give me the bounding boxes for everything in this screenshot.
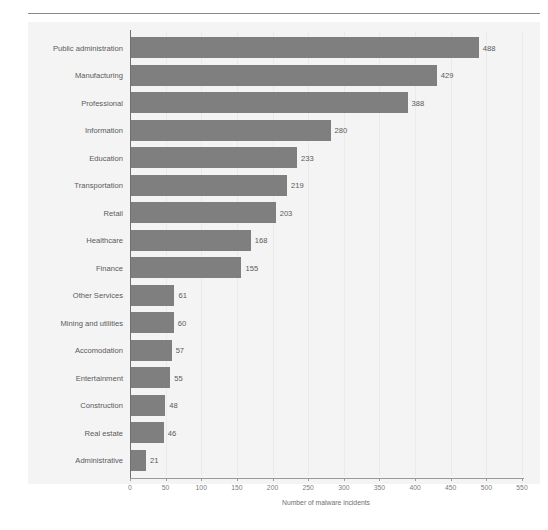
x-axis-tick <box>344 478 345 481</box>
bar-row: Entertainment55 <box>130 364 522 392</box>
x-axis-tick-label: 200 <box>267 484 278 491</box>
x-axis-tick-label: 150 <box>231 484 242 491</box>
x-axis-tick <box>308 478 309 481</box>
x-axis-tick <box>237 478 238 481</box>
x-axis-tick <box>415 478 416 481</box>
category-label: Other Services <box>73 291 123 300</box>
category-label: Healthcare <box>86 236 123 245</box>
bar-row: Professional388 <box>130 89 522 117</box>
bar-value-label: 168 <box>255 236 268 245</box>
bar-value-label: 46 <box>168 428 176 437</box>
x-axis-tick-label: 100 <box>196 484 207 491</box>
category-label: Real estate <box>85 428 123 437</box>
plot-area: Public administration488Manufacturing429… <box>130 34 522 474</box>
category-label: Finance <box>96 263 123 272</box>
bar-row: Accomodation57 <box>130 337 522 365</box>
bar-value-label: 55 <box>174 373 182 382</box>
x-axis-tick-label: 300 <box>338 484 349 491</box>
bar-value-label: 429 <box>441 71 454 80</box>
bar <box>131 230 251 251</box>
x-axis-tick <box>379 478 380 481</box>
bar-row: Public administration488 <box>130 34 522 62</box>
header-divider-rule <box>28 13 540 14</box>
bar <box>131 422 164 443</box>
bar <box>131 37 479 58</box>
x-axis-tick-label: 50 <box>162 484 170 491</box>
x-axis-tick <box>451 478 452 481</box>
x-axis-tick-label: 0 <box>128 484 132 491</box>
x-axis-line <box>130 478 524 479</box>
category-label: Construction <box>80 401 123 410</box>
x-axis-tick <box>201 478 202 481</box>
bar-row: Real estate46 <box>130 419 522 447</box>
x-axis-tick-label: 500 <box>481 484 492 491</box>
bar <box>131 312 174 333</box>
bar-value-label: 203 <box>280 208 293 217</box>
bar-value-label: 280 <box>335 126 348 135</box>
category-label: Retail <box>104 208 123 217</box>
bar-value-label: 155 <box>245 263 258 272</box>
gridline <box>522 32 523 476</box>
bar-row: Construction48 <box>130 392 522 420</box>
bar <box>131 202 276 223</box>
bar <box>131 175 287 196</box>
x-axis-tick <box>166 478 167 481</box>
bar <box>131 367 170 388</box>
bar <box>131 65 437 86</box>
category-label: Administrative <box>75 456 123 465</box>
x-axis-tick-label: 550 <box>516 484 527 491</box>
x-axis-tick <box>522 478 523 481</box>
bar-value-label: 233 <box>301 153 314 162</box>
category-label: Professional <box>81 98 123 107</box>
bar-row: Finance155 <box>130 254 522 282</box>
x-axis-tick-label: 400 <box>409 484 420 491</box>
bar-row: Transportation219 <box>130 172 522 200</box>
bar <box>131 147 297 168</box>
category-label: Manufacturing <box>75 71 123 80</box>
category-label: Mining and utilities <box>61 318 123 327</box>
x-axis-tick <box>486 478 487 481</box>
bar-row: Education233 <box>130 144 522 172</box>
bar <box>131 120 331 141</box>
bar-value-label: 57 <box>176 346 184 355</box>
x-axis-title: Number of malware incidents <box>130 499 522 506</box>
bar-row: Healthcare168 <box>130 227 522 255</box>
bar-row: Retail203 <box>130 199 522 227</box>
x-axis-tick-label: 350 <box>374 484 385 491</box>
bar-row: Manufacturing429 <box>130 62 522 90</box>
bar-value-label: 388 <box>412 98 425 107</box>
bar-value-label: 61 <box>178 291 186 300</box>
x-axis-tick-label: 250 <box>303 484 314 491</box>
category-label: Transportation <box>74 181 123 190</box>
bar-value-label: 21 <box>150 456 158 465</box>
bar-row: Other Services61 <box>130 282 522 310</box>
category-label: Information <box>85 126 123 135</box>
bar-row: Mining and utilities60 <box>130 309 522 337</box>
bar <box>131 395 165 416</box>
bar <box>131 450 146 471</box>
category-label: Education <box>89 153 123 162</box>
x-axis-tick-label: 450 <box>445 484 456 491</box>
category-label: Accomodation <box>75 346 123 355</box>
bar <box>131 340 172 361</box>
bar-value-label: 488 <box>483 43 496 52</box>
x-axis-tick <box>130 478 131 481</box>
category-label: Entertainment <box>76 373 123 382</box>
bar-value-label: 60 <box>178 318 186 327</box>
page-header-band <box>0 0 548 18</box>
bar-row: Information280 <box>130 117 522 145</box>
bar <box>131 92 408 113</box>
category-label: Public administration <box>53 43 123 52</box>
bar <box>131 257 241 278</box>
bar-row: Administrative21 <box>130 447 522 475</box>
x-axis-tick <box>273 478 274 481</box>
bar <box>131 285 174 306</box>
bar-value-label: 48 <box>169 401 177 410</box>
bar-chart-figure: Public administration488Manufacturing429… <box>0 18 548 496</box>
bar-value-label: 219 <box>291 181 304 190</box>
